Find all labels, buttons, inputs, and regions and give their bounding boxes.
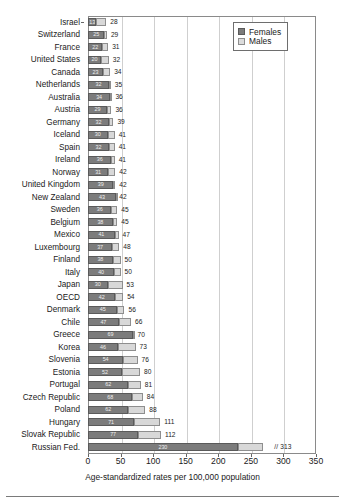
bar-segment-males	[128, 381, 140, 389]
category-label: OECD	[0, 291, 84, 304]
bar-row: 4254	[88, 291, 316, 304]
category-label: Austria	[0, 104, 84, 117]
bar-segment-females: 69	[88, 331, 133, 339]
bar-segment-males	[133, 331, 135, 339]
bar-segment-males	[104, 31, 107, 39]
stacked-bar: 25	[88, 31, 107, 39]
category-label: Luxembourg	[0, 241, 84, 254]
bar-value-total: 29	[111, 31, 118, 38]
axis-break-marker: //	[274, 444, 278, 451]
bar-row: 4050	[88, 266, 316, 279]
bar-value-females: 30	[95, 132, 101, 137]
category-label: Russian Fed.	[0, 441, 84, 454]
bar-segment-females: 71	[88, 418, 134, 426]
category-label: Portugal	[0, 379, 84, 392]
category-label: Japan	[0, 279, 84, 292]
x-tick-label: 250	[244, 456, 258, 466]
bar-row: 3235	[88, 79, 316, 92]
bar-segment-males	[132, 393, 142, 401]
bar-segment-males	[113, 256, 121, 264]
bar-segment-males	[115, 293, 123, 301]
bar-value-females: 29	[95, 107, 101, 112]
bar-row: 5280	[88, 366, 316, 379]
bar-value-females: 23	[93, 70, 99, 75]
category-label: Slovenia	[0, 354, 84, 367]
bar-value-total: 50	[125, 269, 132, 276]
bar-row: 3239	[88, 116, 316, 129]
bar-value-total: 56	[128, 306, 135, 313]
bar-value-total: 47	[123, 231, 130, 238]
bar-row: 4556	[88, 304, 316, 317]
stacked-bar: 68	[88, 393, 143, 401]
bar-segment-females: 45	[88, 306, 117, 314]
bar-segment-females: 32	[88, 81, 109, 89]
bar-segment-males	[134, 418, 160, 426]
bar-value-females: 38	[97, 220, 103, 225]
bar-value-females: 62	[105, 382, 111, 387]
category-label: Greece	[0, 329, 84, 342]
stacked-bar: 32	[88, 143, 115, 151]
x-tick-label: 50	[116, 456, 126, 466]
stacked-bar: 41	[88, 231, 119, 239]
bar-segment-females: 36	[88, 156, 111, 164]
category-label: Norway	[0, 166, 84, 179]
bar-segment-females: 62	[88, 406, 128, 414]
bar-row: 2334	[88, 66, 316, 79]
category-label: Poland	[0, 404, 84, 417]
bar-value-total: 50	[125, 256, 132, 263]
bar-segment-males	[110, 93, 112, 101]
bar-value-total: 80	[144, 369, 151, 376]
stacked-bar: 38	[88, 256, 121, 264]
category-label: Australia	[0, 91, 84, 104]
bar-value-females: 38	[97, 257, 103, 262]
bar-value-total: 53	[127, 281, 134, 288]
bar-segment-females: 230	[88, 443, 238, 451]
bar-segment-females: 31	[88, 168, 108, 176]
bar-row: 3436	[88, 91, 316, 104]
bar-segment-males	[123, 356, 137, 364]
bar-segment-females: 41	[88, 231, 115, 239]
bar-row: 6884	[88, 391, 316, 404]
bar-segment-males	[109, 143, 115, 151]
stacked-bar: 62	[88, 381, 141, 389]
bar-value-total: 88	[149, 406, 156, 413]
bar-value-total: 111	[164, 419, 174, 426]
bar-row: 4673	[88, 341, 316, 354]
bar-segment-females: 43	[88, 193, 116, 201]
bar-value-total: 70	[138, 331, 145, 338]
bar-value-females: 39	[98, 182, 104, 187]
bar-segment-males	[109, 118, 114, 126]
bar-segment-females: 47	[88, 318, 119, 326]
stacked-bar: 43	[88, 193, 118, 201]
bar-segment-males	[112, 243, 119, 251]
bar-segment-males	[115, 231, 119, 239]
chart-root: IsraelSwitzerlandFranceUnited StatesCana…	[0, 0, 345, 504]
bar-segment-males	[114, 268, 121, 276]
x-tick-label: 300	[276, 456, 290, 466]
bar-row: 3748	[88, 241, 316, 254]
bar-segment-males	[109, 81, 111, 89]
stacked-bar: 31	[88, 168, 115, 176]
bar-value-females: 30	[95, 282, 101, 287]
bar-segment-females: 36	[88, 206, 111, 214]
bar-segment-females: 77	[88, 431, 138, 439]
category-axis: IsraelSwitzerlandFranceUnited StatesCana…	[0, 16, 84, 454]
bar-value-females: 22	[92, 45, 98, 50]
stacked-bar: 46	[88, 343, 136, 351]
stacked-bar: 52	[88, 368, 140, 376]
stacked-bar: 77	[88, 431, 161, 439]
bar-segment-males	[108, 168, 115, 176]
x-axis-label: Age-standardized rates per 100,000 popul…	[0, 472, 345, 482]
stacked-bar: 42	[88, 293, 123, 301]
stacked-bar: 20	[88, 56, 109, 64]
category-label: New Zealand	[0, 191, 84, 204]
category-label: Korea	[0, 341, 84, 354]
chart-legend: Females Males	[233, 22, 288, 51]
bar-value-females: 32	[96, 145, 102, 150]
bar-value-females: 45	[100, 307, 106, 312]
stacked-bar: 32	[88, 81, 111, 89]
bar-segment-females: 30	[88, 281, 108, 289]
category-label: Italy	[0, 266, 84, 279]
x-tick-label: 100	[146, 456, 160, 466]
bar-segment-males	[102, 43, 108, 51]
